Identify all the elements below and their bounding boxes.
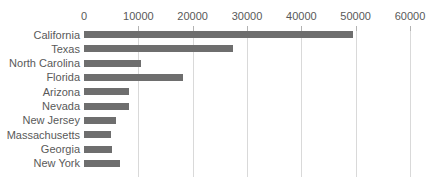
bar-new-york bbox=[84, 160, 120, 167]
category-label: Texas bbox=[0, 42, 80, 56]
gridline bbox=[301, 31, 302, 177]
bar-nevada bbox=[84, 103, 129, 110]
category-label: Georgia bbox=[0, 142, 80, 156]
bar-california bbox=[84, 31, 353, 38]
category-label: North Carolina bbox=[0, 56, 80, 70]
category-label: New Jersey bbox=[0, 113, 80, 127]
x-axis-tick-label: 0 bbox=[81, 10, 87, 22]
x-axis-tick-label: 30000 bbox=[232, 10, 263, 22]
bar-massachusetts bbox=[84, 131, 111, 138]
bar-new-jersey bbox=[84, 117, 116, 124]
category-label: Florida bbox=[0, 70, 80, 84]
x-axis-tick-label: 20000 bbox=[177, 10, 208, 22]
gridline bbox=[410, 31, 411, 177]
bar-chart: 0100002000030000400005000060000 Californ… bbox=[0, 0, 427, 185]
category-label: Massachusetts bbox=[0, 128, 80, 142]
bar-florida bbox=[84, 74, 183, 81]
gridline bbox=[247, 31, 248, 177]
x-axis-tick-label: 40000 bbox=[286, 10, 317, 22]
bar-arizona bbox=[84, 88, 129, 95]
category-label: New York bbox=[0, 156, 80, 170]
gridline bbox=[138, 31, 139, 177]
bar-north-carolina bbox=[84, 60, 141, 67]
category-label: Arizona bbox=[0, 85, 80, 99]
x-axis-tick-label: 50000 bbox=[340, 10, 371, 22]
gridline bbox=[193, 31, 194, 177]
category-label: California bbox=[0, 28, 80, 42]
x-axis-tick-label: 10000 bbox=[123, 10, 154, 22]
bar-texas bbox=[84, 45, 233, 52]
x-axis-tick-label: 60000 bbox=[395, 10, 426, 22]
gridline bbox=[356, 31, 357, 177]
bar-georgia bbox=[84, 146, 112, 153]
category-label: Nevada bbox=[0, 99, 80, 113]
